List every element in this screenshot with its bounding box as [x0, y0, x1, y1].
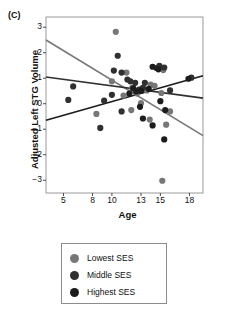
data-point — [137, 104, 143, 110]
legend-marker-icon — [70, 254, 79, 263]
figure-panel-c: (C) Adjusted Left STG Volume Age 3210−1−… — [0, 0, 228, 315]
plot-frame — [46, 17, 203, 193]
data-point — [161, 136, 167, 142]
data-point — [185, 76, 191, 82]
data-point — [115, 53, 121, 59]
data-point — [150, 64, 156, 70]
data-point — [101, 98, 107, 104]
data-point — [93, 111, 99, 117]
data-point — [140, 115, 146, 121]
data-point — [118, 70, 124, 76]
data-point — [159, 178, 165, 184]
data-point — [162, 107, 168, 113]
legend-marker-icon — [70, 271, 79, 280]
data-point — [130, 85, 136, 91]
data-point — [109, 78, 115, 84]
legend-item: Lowest SES — [70, 249, 133, 267]
data-point — [161, 64, 167, 70]
legend: Lowest SESMiddle SESHighest SES — [61, 243, 167, 304]
data-point — [111, 67, 117, 73]
data-point — [163, 122, 169, 128]
legend-marker-icon — [70, 288, 79, 297]
legend-label: Highest SES — [87, 287, 135, 297]
data-point — [167, 87, 173, 93]
data-point — [97, 125, 103, 131]
data-point — [70, 83, 76, 89]
data-point — [65, 97, 71, 103]
plot-frame-rect — [46, 17, 203, 193]
data-point — [147, 116, 153, 122]
data-point — [118, 108, 124, 114]
data-point — [158, 90, 164, 96]
data-point — [113, 29, 119, 35]
trend-lines — [46, 40, 203, 136]
legend-item: Highest SES — [70, 283, 135, 301]
legend-label: Lowest SES — [87, 253, 133, 263]
data-point — [150, 122, 156, 128]
data-point — [157, 98, 163, 104]
data-point — [132, 80, 138, 86]
data-point — [146, 86, 152, 92]
data-points — [65, 29, 194, 184]
data-point — [126, 90, 132, 96]
data-point — [120, 92, 126, 98]
data-point — [151, 83, 157, 89]
legend-item: Middle SES — [70, 266, 131, 284]
data-point — [128, 107, 134, 113]
data-point — [155, 66, 161, 72]
legend-label: Middle SES — [87, 270, 131, 280]
data-point — [109, 92, 115, 98]
